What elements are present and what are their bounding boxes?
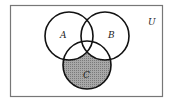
shaded-region-c-only bbox=[0, 0, 169, 102]
label-universe: U bbox=[148, 17, 156, 27]
label-a: A bbox=[59, 30, 67, 40]
venn-diagram: A B C U bbox=[0, 0, 169, 102]
label-b: B bbox=[107, 30, 115, 40]
label-c: C bbox=[83, 70, 90, 80]
